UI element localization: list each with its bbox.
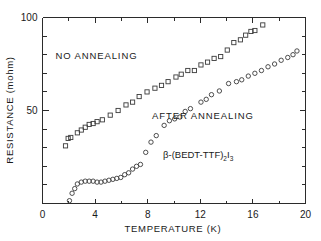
data-point-circle <box>246 74 250 78</box>
data-point-circle <box>295 49 299 53</box>
data-point-circle <box>154 133 158 137</box>
annotation-no-annealing: NO ANNEALING <box>55 50 137 61</box>
x-tick-label: 0 <box>40 209 46 220</box>
data-point-square <box>225 48 229 52</box>
figure-container: 04812162050100 NO ANNEALINGAFTER ANNEALI… <box>0 0 321 241</box>
x-tick-label: 8 <box>145 209 151 220</box>
data-point-square <box>199 63 203 67</box>
y-tick-label: 50 <box>26 105 38 116</box>
data-point-square <box>261 23 265 27</box>
data-point-circle <box>130 167 134 171</box>
data-point-square <box>219 54 223 58</box>
data-point-circle <box>138 162 142 166</box>
formula-body: -(BEDT-TTF) <box>168 149 223 160</box>
data-point-square <box>186 68 190 72</box>
data-point-square <box>232 41 236 45</box>
x-tick-label: 20 <box>300 209 312 220</box>
data-point-square <box>100 118 104 122</box>
data-point-square <box>244 33 248 37</box>
data-point-circle <box>279 58 283 62</box>
data-point-square <box>179 72 183 76</box>
x-tick-label: 4 <box>92 209 98 220</box>
data-point-circle <box>70 191 74 195</box>
data-point-circle <box>253 71 257 75</box>
data-point-square <box>145 90 149 94</box>
data-point-square <box>108 113 112 117</box>
data-point-square <box>130 100 134 104</box>
data-point-circle <box>162 123 166 127</box>
data-point-circle <box>204 97 208 101</box>
data-point-square <box>116 108 120 112</box>
data-point-circle <box>240 78 244 82</box>
data-point-circle <box>73 186 77 190</box>
data-point-square <box>205 60 209 64</box>
data-point-circle <box>286 55 290 59</box>
data-point-circle <box>259 68 263 72</box>
formula-subscript-3: 3 <box>230 155 234 162</box>
data-point-square <box>192 68 196 72</box>
data-point-square <box>153 86 157 90</box>
data-point-square <box>159 83 163 87</box>
data-point-circle <box>234 79 238 83</box>
data-point-square <box>174 75 178 79</box>
x-axis-title: TEMPERATURE (K) <box>125 223 222 234</box>
data-point-circle <box>209 92 213 96</box>
data-point-circle <box>149 140 153 144</box>
data-point-circle <box>144 150 148 154</box>
data-point-circle <box>226 81 230 85</box>
compound-formula-label: β-(BEDT-TTF)2I3 <box>163 149 234 162</box>
data-point-square <box>212 56 216 60</box>
annotation-after-annealing: AFTER ANNEALING <box>152 110 254 121</box>
data-point-circle <box>67 199 71 203</box>
y-axis-title: RESISTANCE (mohm) <box>4 56 15 163</box>
y-tick-label: 100 <box>21 12 38 23</box>
data-point-square <box>137 94 141 98</box>
data-point-circle <box>199 100 203 104</box>
series-no-annealing <box>63 23 264 148</box>
data-point-square <box>166 80 170 84</box>
data-point-circle <box>217 89 221 93</box>
data-point-square <box>124 103 128 107</box>
data-point-square <box>63 144 67 148</box>
resistance-temperature-chart: 04812162050100 NO ANNEALINGAFTER ANNEALI… <box>0 0 321 241</box>
chart-annotations: NO ANNEALINGAFTER ANNEALING <box>55 50 253 121</box>
x-tick-label: 16 <box>247 209 259 220</box>
data-point-square <box>238 38 242 42</box>
data-point-circle <box>126 171 130 175</box>
data-point-circle <box>272 62 276 66</box>
data-point-circle <box>266 65 270 69</box>
data-point-circle <box>291 53 295 57</box>
x-tick-label: 12 <box>195 209 207 220</box>
